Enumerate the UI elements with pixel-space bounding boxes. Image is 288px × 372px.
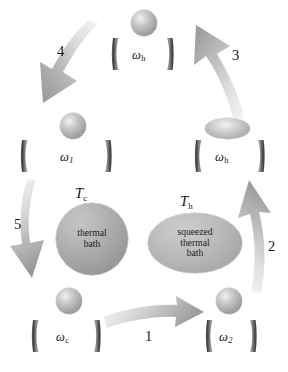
- step-3-label: 3: [232, 47, 239, 64]
- hot-bath-line: squeezed: [177, 227, 212, 238]
- hot-bath-temperature-label: Th: [180, 193, 193, 210]
- step-5-label: 5: [14, 216, 21, 233]
- mode-sphere: [60, 113, 86, 139]
- step-4-label: 4: [57, 43, 64, 60]
- mode-sphere: [56, 288, 82, 314]
- cavity-mirror-right: [94, 320, 101, 352]
- cavity-mirror-left: [206, 320, 213, 352]
- cold-bath-line: bath: [84, 239, 101, 250]
- mode-sphere: [216, 288, 242, 314]
- stage-top-frequency-label: ωh: [132, 48, 145, 63]
- cold-bath-body: thermal bath: [56, 203, 128, 275]
- stage-right-frequency-label: ωh: [215, 150, 228, 165]
- step-2-label: 2: [268, 238, 275, 255]
- stage-left-frequency-label: ω1: [60, 150, 73, 165]
- cavity-mirror-left: [195, 140, 202, 172]
- cavity-mirror-right: [258, 140, 265, 172]
- cavity-mirror-left: [32, 320, 39, 352]
- stage-bottom-right-frequency-label: ω2: [219, 330, 232, 345]
- step-1-label: 1: [145, 328, 152, 345]
- cold-bath-temperature-label: Tc: [75, 185, 87, 202]
- cavity-mirror-right: [250, 320, 257, 352]
- squeezed-mode-ellipse: [205, 118, 250, 139]
- mode-sphere: [131, 10, 157, 36]
- hot-bath-body: squeezed thermal bath: [148, 213, 242, 273]
- hot-bath-line: bath: [187, 248, 204, 259]
- cavity-mirror-left: [21, 140, 28, 172]
- figure-canvas: ωh ω1 ωh ωc ω2 Tc thermal ba: [0, 0, 288, 372]
- cavity-mirror-left: [112, 38, 119, 70]
- stage-bottom-left-frequency-label: ωc: [56, 330, 69, 345]
- cavity-mirror-right: [167, 38, 174, 70]
- cavity-mirror-right: [105, 140, 112, 172]
